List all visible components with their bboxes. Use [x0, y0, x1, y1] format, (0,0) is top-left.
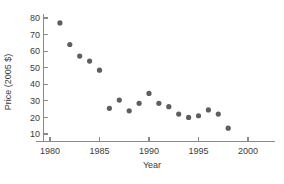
chart-canvas: 1020304050607080 Price (2005 $) 19801985… — [0, 0, 284, 184]
y-tick-label: 20 — [30, 113, 40, 123]
data-point — [216, 112, 221, 117]
data-point — [137, 101, 142, 106]
data-point — [226, 126, 231, 131]
data-point — [196, 113, 201, 118]
y-tick-label: 40 — [30, 79, 40, 89]
scatter-chart: 1020304050607080 Price (2005 $) 19801985… — [0, 0, 284, 184]
x-tick-label: 1995 — [188, 146, 208, 156]
data-point — [166, 104, 171, 109]
data-point — [117, 97, 122, 102]
data-point-group — [57, 20, 230, 130]
data-point — [186, 115, 191, 120]
data-point — [67, 42, 72, 47]
data-point — [107, 106, 112, 111]
data-point — [57, 20, 62, 25]
data-point — [97, 68, 102, 73]
x-tick-group — [50, 137, 248, 142]
y-tick-label: 50 — [30, 63, 40, 73]
data-point — [176, 112, 181, 117]
y-tick-label: 80 — [30, 13, 40, 23]
y-tick-group — [44, 18, 49, 134]
x-tick-label: 1990 — [139, 146, 159, 156]
data-point — [146, 91, 151, 96]
data-point — [206, 107, 211, 112]
data-point — [127, 108, 132, 113]
x-tick-label-group: 19801985199019952000 — [40, 146, 258, 156]
y-tick-label-group: 1020304050607080 — [30, 13, 40, 139]
y-tick-label: 30 — [30, 96, 40, 106]
x-tick-label: 1985 — [89, 146, 109, 156]
data-point — [156, 101, 161, 106]
y-axis: 1020304050607080 Price (2005 $) — [3, 13, 48, 141]
data-point — [87, 58, 92, 63]
x-tick-label: 2000 — [238, 146, 258, 156]
x-axis-title: Year — [143, 160, 161, 170]
y-tick-label: 70 — [30, 30, 40, 40]
data-point — [77, 54, 82, 59]
y-axis-title: Price (2005 $) — [3, 54, 13, 111]
y-tick-label: 10 — [30, 129, 40, 139]
x-axis: 19801985199019952000 Year — [36, 137, 275, 171]
x-tick-label: 1980 — [40, 146, 60, 156]
y-tick-label: 60 — [30, 46, 40, 56]
